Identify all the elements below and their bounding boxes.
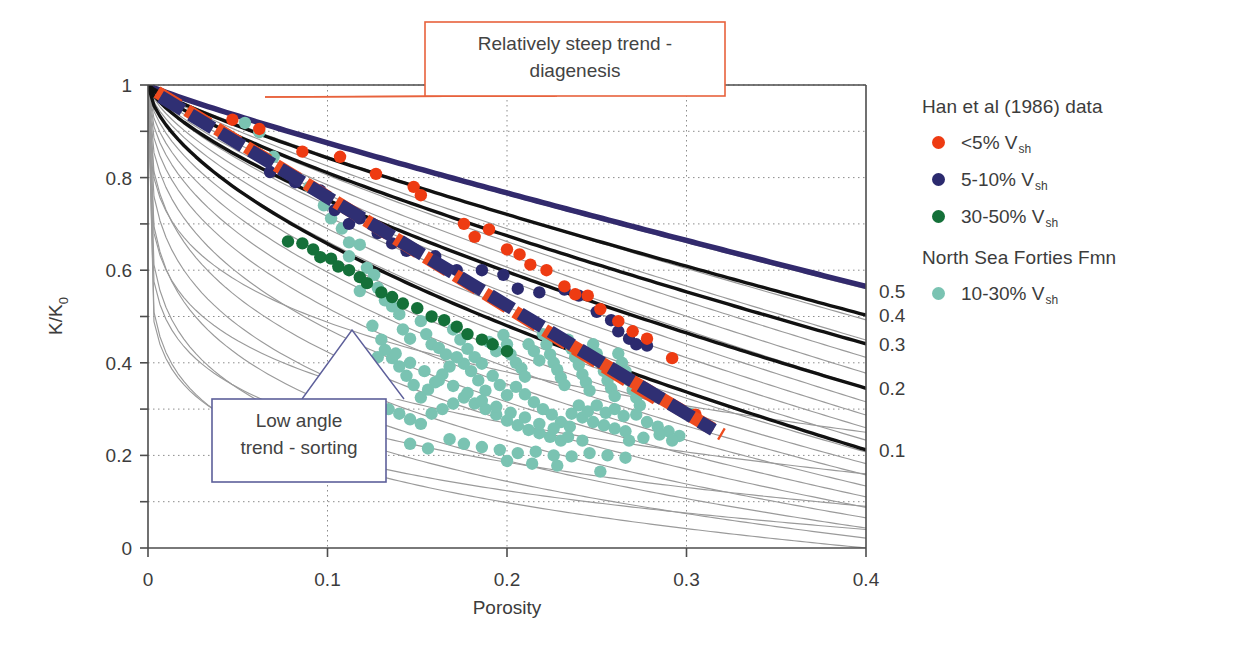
y-tick-label: 1: [121, 75, 132, 96]
data-point: [296, 145, 308, 157]
legend-label-lt5-text: <5% V: [961, 132, 1018, 153]
contour-label: 0.5: [879, 281, 905, 302]
data-point: [447, 397, 459, 409]
x-axis-title: Porosity: [473, 597, 542, 618]
data-point: [524, 258, 536, 270]
data-point: [630, 338, 642, 350]
data-point: [526, 458, 538, 470]
legend-item-5to10[interactable]: 5-10% Vsh: [920, 161, 1240, 198]
x-tick-label: 0.2: [494, 569, 520, 590]
right-contour-labels: 0.50.40.30.20.1: [879, 281, 906, 461]
legend-item-30to50[interactable]: 30-50% Vsh: [920, 198, 1240, 235]
data-point: [361, 277, 373, 289]
y-tick-label: 0: [121, 538, 132, 559]
x-tick-label: 0.1: [314, 569, 340, 590]
data-point: [343, 236, 355, 248]
callout-pointer: [302, 330, 404, 399]
legend-label-30to50-text: 30-50% V: [961, 206, 1044, 227]
data-point: [461, 387, 473, 399]
data-point: [343, 264, 355, 276]
data-point: [393, 308, 405, 320]
x-tick-label: 0.4: [853, 569, 880, 590]
legend-label-10to30-text: 10-30% V: [961, 283, 1044, 304]
data-point: [501, 455, 513, 467]
data-point: [501, 243, 513, 255]
data-point: [397, 297, 409, 309]
data-point: [393, 408, 405, 420]
data-point: [425, 408, 437, 420]
data-point: [226, 114, 238, 126]
data-point: [461, 328, 473, 340]
data-point: [476, 264, 488, 276]
data-point: [519, 370, 531, 382]
data-point: [422, 442, 434, 454]
data-point: [594, 303, 606, 315]
data-point: [513, 248, 525, 260]
y-axis-title-sub: 0: [56, 297, 71, 304]
data-point: [587, 416, 599, 428]
legend-label-lt5: <5% Vsh: [961, 132, 1030, 154]
y-tick-label: 0.6: [106, 260, 132, 281]
chart-legend: Han et al (1986) data <5% Vsh 5-10% Vsh …: [920, 96, 1240, 312]
data-point: [415, 315, 427, 327]
data-point: [390, 347, 402, 359]
data-point: [433, 374, 445, 386]
data-point: [404, 333, 416, 345]
data-point: [404, 438, 416, 450]
data-point: [519, 411, 531, 423]
callout-line: diagenesis: [530, 60, 621, 81]
data-point: [494, 444, 506, 456]
data-point: [630, 408, 642, 420]
y-tick-label: 0.2: [106, 445, 132, 466]
data-point: [612, 315, 624, 327]
data-point: [547, 422, 559, 434]
data-point: [637, 432, 649, 444]
data-point: [666, 434, 678, 446]
data-point: [425, 310, 437, 322]
data-point: [569, 288, 581, 300]
legend-label-5to10-sub: sh: [1035, 179, 1048, 193]
legend-heading-han: Han et al (1986) data: [922, 96, 1240, 118]
data-point: [366, 320, 378, 332]
legend-swatch-lt5: [932, 136, 945, 149]
data-point: [530, 446, 542, 458]
legend-item-lt5[interactable]: <5% Vsh: [920, 124, 1240, 161]
data-point: [476, 441, 488, 453]
data-point: [504, 407, 516, 419]
data-point: [476, 358, 488, 370]
data-point: [666, 352, 678, 364]
legend-label-10to30: 10-30% Vsh: [961, 283, 1057, 305]
data-point: [296, 237, 308, 249]
data-point: [239, 117, 251, 129]
data-point: [623, 434, 635, 446]
data-point: [601, 449, 613, 461]
legend-swatch-10to30: [932, 287, 945, 300]
data-point: [404, 357, 416, 369]
x-tick-label: 0: [143, 569, 154, 590]
y-tick-label: 0.4: [106, 353, 133, 374]
data-point: [282, 235, 294, 247]
data-point: [540, 264, 552, 276]
legend-group-han: Han et al (1986) data <5% Vsh 5-10% Vsh …: [920, 96, 1240, 235]
data-point: [594, 465, 606, 477]
data-point: [375, 286, 387, 298]
legend-item-10to30[interactable]: 10-30% Vsh: [920, 275, 1240, 312]
legend-label-5to10: 5-10% Vsh: [961, 169, 1047, 191]
data-point: [451, 320, 463, 332]
contour-label: 0.4: [879, 305, 906, 326]
data-point: [411, 302, 423, 314]
data-point: [458, 218, 470, 230]
contour-label: 0.3: [879, 334, 905, 355]
data-point: [558, 379, 570, 391]
data-point: [562, 431, 574, 443]
y-axis-title-main: K/K: [45, 304, 66, 335]
data-point: [609, 422, 621, 434]
data-point: [458, 438, 470, 450]
data-point: [443, 433, 455, 445]
data-point: [314, 251, 326, 263]
legend-label-30to50-sub: sh: [1045, 216, 1058, 230]
legend-label-30to50: 30-50% Vsh: [961, 206, 1057, 228]
data-point: [641, 416, 653, 428]
data-point: [476, 333, 488, 345]
data-point: [512, 283, 524, 295]
